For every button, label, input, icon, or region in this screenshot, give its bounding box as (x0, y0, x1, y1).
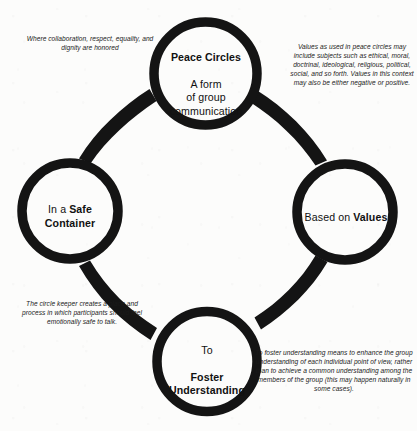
node-label-based-on-values: Based on Values (296, 198, 396, 225)
node-label-peace-circles: Peace Circles A form of group communicat… (147, 38, 265, 131)
node-prefix-based-on-values: Based on (305, 211, 354, 223)
annotation-foster-understanding-explanation: To foster understanding means to enhance… (252, 348, 416, 393)
node-body-peace-circles: A form of group communication (147, 78, 265, 118)
node-label-in-a-safe-container: In a Safe Container (21, 190, 119, 230)
connector-top-to-left (79, 89, 157, 164)
node-label-to-foster-understanding: To Foster Understanding (148, 331, 266, 411)
node-heading-peace-circles: Peace Circles (147, 51, 265, 64)
node-prefix-in-a-safe-container: In a (48, 203, 69, 215)
peace-circles-diagram: Peace Circles A form of group communicat… (0, 0, 417, 431)
connector-right-to-bottom (255, 256, 328, 330)
annotation-safe-container-values: Where collaboration, respect, equality, … (24, 34, 156, 52)
node-heading-to-foster-understanding: Foster Understanding (148, 371, 266, 398)
annotation-values-explanation: Values as used in peace circles may incl… (290, 42, 414, 87)
node-heading-based-on-values: Values (353, 211, 387, 223)
annotation-circle-keeper-role: The circle keeper creates a place and pr… (14, 299, 150, 326)
node-prefix-to-foster-understanding: To (148, 344, 266, 357)
